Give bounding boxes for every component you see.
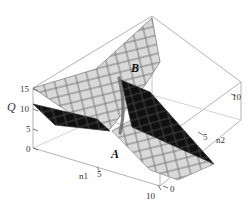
q-tick-5 <box>33 129 38 131</box>
n1-tick-label-10: 10 <box>146 191 156 201</box>
light-surface <box>20 10 230 190</box>
q-axis <box>33 89 38 150</box>
box-top-edge-right <box>152 16 241 82</box>
q-axis-title: Q <box>7 100 16 114</box>
n1-axis-title: n1 <box>79 171 88 181</box>
surface-plot-figure: 15 10 5 0 Q 5 10 n1 10 5 0 n2 B A <box>0 0 252 211</box>
n2-tick-0 <box>163 186 168 188</box>
q-tick-label-15: 15 <box>20 84 30 94</box>
annotation-label-b: B <box>130 61 139 75</box>
q-tick-10 <box>33 109 38 111</box>
q-tick-label-10: 10 <box>20 104 30 114</box>
n1-tick-label-5: 5 <box>97 169 102 179</box>
n2-axis-title: n2 <box>216 135 225 145</box>
plot-canvas: 15 10 5 0 Q 5 10 n1 10 5 0 n2 B A <box>0 0 252 211</box>
q-tick-label-0: 0 <box>26 144 31 154</box>
n2-tick-label-5: 5 <box>203 132 208 142</box>
q-tick-label-5: 5 <box>26 124 31 134</box>
n2-tick-label-10: 10 <box>232 92 242 102</box>
n2-tick-label-0: 0 <box>170 184 175 194</box>
annotation-label-a: A <box>110 147 119 161</box>
